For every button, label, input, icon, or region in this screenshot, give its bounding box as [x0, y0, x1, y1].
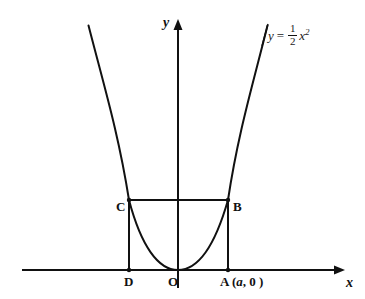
point-marker-c	[127, 198, 131, 202]
curve-equation-label: y = 1 2 x2	[268, 24, 309, 48]
point-a-rest: , 0 )	[243, 274, 264, 289]
fraction-denominator: 2	[289, 36, 297, 48]
point-label-d: D	[124, 275, 133, 288]
y-axis-arrowhead	[174, 19, 183, 30]
point-a-open: A (	[220, 274, 236, 289]
geometry-figure	[0, 0, 365, 299]
point-marker-a	[226, 268, 230, 272]
point-label-b: B	[233, 200, 242, 213]
equation-fraction: 1 2	[288, 23, 297, 47]
equation-equals: =	[277, 28, 284, 44]
point-label-a-coordinate: A (a, 0 )	[220, 275, 263, 288]
point-label-o: O	[168, 275, 178, 288]
point-label-c: C	[116, 200, 125, 213]
point-marker-b	[226, 198, 230, 202]
x-axis-label: x	[346, 276, 353, 290]
y-axis-label: y	[163, 16, 169, 30]
fraction-numerator: 1	[289, 23, 297, 35]
x-axis-arrowhead	[334, 266, 345, 275]
equation-y: y	[268, 28, 274, 44]
equation-exponent: 2	[305, 27, 310, 37]
point-marker-d	[127, 268, 131, 272]
